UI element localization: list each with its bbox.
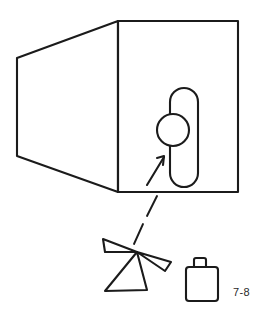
container-left-tapered-face [17, 21, 118, 192]
fragments-group [103, 239, 171, 291]
figure-caption: 7-8 [233, 286, 250, 298]
leader-line-group [134, 196, 157, 244]
leader-dash-segment-2 [134, 224, 143, 244]
bag-body-shape [186, 267, 218, 301]
leader-dash-segment-1 [147, 196, 157, 216]
container-group [17, 21, 238, 192]
bag-group [186, 258, 218, 301]
technical-illustration-svg [0, 0, 266, 322]
fragment-upper-left-wedge [103, 239, 137, 252]
circular-port-icon [157, 114, 189, 146]
fragment-lower-triangle [105, 252, 147, 291]
figure-container: 7-8 [0, 0, 266, 322]
